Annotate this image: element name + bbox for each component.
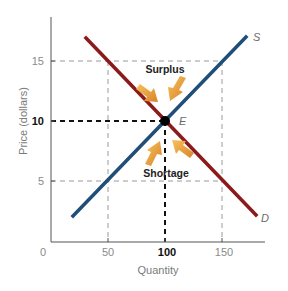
x-axis-label: Quantity [138,264,179,276]
x-tick-label-100: 100 [158,246,176,258]
x-tick-label-0: 0 [40,246,46,258]
x-tick-label-150: 150 [215,246,233,258]
supply-label: S [253,31,261,43]
supply-demand-chart: Surplus Shortage E S D 15 10 5 0 50 100 … [0,0,288,291]
surplus-label: Surplus [145,63,184,75]
y-tick-label-5: 5 [38,175,44,187]
y-tick-label-10: 10 [32,115,44,127]
arrow-up-right-icon [145,141,162,166]
y-axis-label: Price (dollars) [17,87,29,155]
demand-label: D [261,212,269,224]
arrow-down-left-icon [168,76,186,101]
x-tick-label-50: 50 [102,246,114,258]
equilibrium-label: E [179,115,187,127]
equilibrium-point [160,116,170,126]
y-tick-label-15: 15 [32,55,44,67]
shortage-label: Shortage [143,167,189,179]
